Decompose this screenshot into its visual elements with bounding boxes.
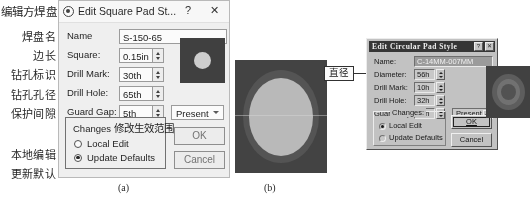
square-pad-preview — [180, 38, 225, 83]
drill-hole-label: Drill Hole: — [67, 87, 108, 98]
radio-local-edit[interactable]: Local Edit — [74, 138, 129, 149]
circular-pad-preview — [486, 66, 530, 118]
edit-circular-pad-dialog: Edit Circular Pad Style ? ✕ Name: C-14MM… — [366, 38, 498, 150]
diameter-stepper[interactable] — [436, 69, 445, 80]
dialog-b-titlebar: Edit Circular Pad Style ? ✕ — [369, 41, 495, 52]
name-input[interactable]: C-14MM-007MM — [414, 56, 493, 67]
changes-group-title: Changes 修改生效范围 — [73, 120, 174, 135]
drill-mark-input[interactable]: 30th — [119, 67, 153, 82]
annotation-drill-hole: 钻孔孔径 — [11, 86, 56, 102]
dialog-a-title: Edit Square Pad St... — [78, 5, 182, 17]
changes-group: Changes 修改生效范围 Local Edit Update Default… — [65, 117, 166, 169]
annotation-guard-gap: 保护间隙 — [11, 105, 56, 121]
row-drill-hole: Drill Hole: 32h — [374, 95, 464, 106]
close-icon[interactable]: ✕ — [210, 4, 219, 17]
radio-update-defaults[interactable]: Update Defaults — [74, 152, 155, 163]
annotation-drill-mark: 钻孔标识 — [11, 66, 56, 82]
changes-group-title-cn: 修改生效范围 — [114, 122, 174, 134]
drill-mark-stepper[interactable] — [153, 67, 164, 82]
annotation-side-length: 边长 — [33, 47, 56, 63]
cancel-button[interactable]: Cancel — [174, 151, 225, 169]
row-drill-mark: Drill Mark: 10h — [374, 82, 464, 93]
circular-pad-disc — [249, 78, 313, 156]
radio-update-defaults[interactable]: Update Defaults — [379, 133, 443, 142]
diameter-label: Diameter: — [374, 70, 407, 79]
changes-group-title: Changes: — [390, 108, 426, 117]
drill-mark-input[interactable]: 10h — [414, 82, 435, 93]
changes-group: Changes: Local Edit Update Defaults — [373, 111, 446, 146]
drill-mark-label: Drill Mark: — [374, 83, 408, 92]
changes-group-title-en: Changes — [73, 123, 111, 134]
row-drill-mark: Drill Mark: 30th — [67, 67, 187, 82]
name-label: Name — [67, 30, 92, 41]
caption-b: (b) — [264, 182, 276, 193]
cancel-button[interactable]: Cancel — [451, 133, 492, 147]
chinese-annotation-column: 编辑方焊盘 焊盘名 边长 钻孔标识 钻孔孔径 保护间隙 本地编辑 更新默认 — [0, 0, 58, 200]
guard-gap-select[interactable]: Present — [171, 105, 224, 120]
drill-hole-stepper[interactable] — [153, 86, 164, 101]
drill-hole-stepper[interactable] — [436, 95, 445, 106]
chevron-down-icon — [213, 111, 219, 114]
drill-hole-input[interactable]: 65th — [119, 86, 153, 101]
annotation-pad-name: 焊盘名 — [22, 28, 56, 44]
drill-mark-stepper[interactable] — [436, 82, 445, 93]
drill-hole-label: Drill Hole: — [374, 96, 407, 105]
annotation-title: 编辑方焊盘 — [1, 3, 58, 19]
square-pad-hole — [194, 52, 211, 69]
caption-a: (a) — [118, 182, 129, 193]
dialog-a-titlebar: Edit Square Pad St... ? ✕ — [59, 1, 229, 23]
edit-square-pad-dialog: Edit Square Pad St... ? ✕ Name S-150-65 … — [58, 0, 230, 178]
diameter-input[interactable]: 56h — [414, 69, 435, 80]
ok-button[interactable]: OK — [174, 127, 225, 145]
ok-button-label: OK — [466, 117, 477, 126]
row-drill-hole: Drill Hole: 65th — [67, 86, 187, 101]
circular-pad-hole — [501, 84, 516, 100]
annotation-update-defaults: 更新默认 — [11, 165, 56, 181]
scan-line — [235, 115, 327, 116]
app-icon — [63, 6, 74, 17]
help-icon[interactable]: ? — [185, 4, 191, 16]
square-stepper[interactable] — [153, 48, 164, 63]
figure-page: 编辑方焊盘 焊盘名 边长 钻孔标识 钻孔孔径 保护间隙 本地编辑 更新默认 Ed… — [0, 0, 530, 200]
diameter-callout: 直径 — [324, 66, 354, 81]
row-diameter: Diameter: 56h — [374, 69, 464, 80]
close-icon[interactable]: ✕ — [485, 42, 494, 51]
radio-local-edit[interactable]: Local Edit — [379, 121, 422, 130]
square-input[interactable]: 0.15in — [119, 48, 153, 63]
dialog-b-title: Edit Circular Pad Style — [372, 42, 457, 51]
guard-gap-select-value: Present — [176, 108, 209, 119]
row-name: Name: C-14MM-007MM — [374, 56, 494, 67]
guard-gap-label: Guard Gap: — [67, 106, 117, 117]
circular-pad-large-preview — [235, 60, 327, 173]
square-label: Square: — [67, 49, 100, 60]
row-square: Square: 0.15in — [67, 48, 187, 63]
callout-leader-line — [353, 73, 367, 74]
drill-mark-label: Drill Mark: — [67, 68, 110, 79]
drill-hole-input[interactable]: 32h — [414, 95, 435, 106]
annotation-local-edit: 本地编辑 — [11, 146, 56, 162]
help-icon[interactable]: ? — [474, 42, 483, 51]
name-label: Name: — [374, 57, 396, 66]
